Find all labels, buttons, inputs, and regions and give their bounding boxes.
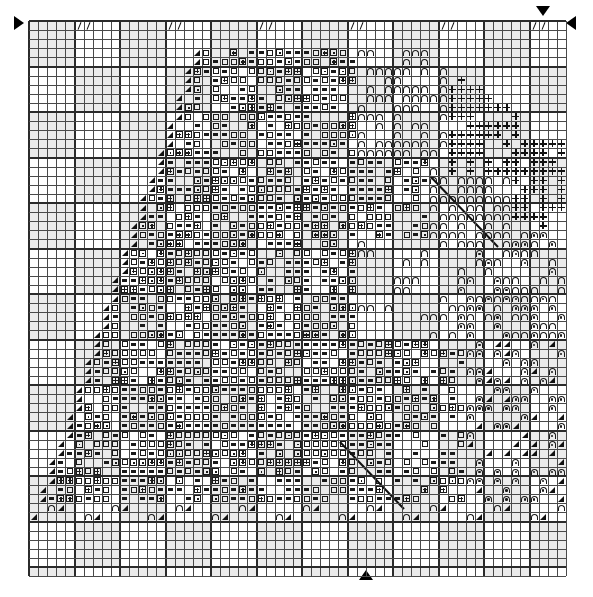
dash-icon	[295, 415, 300, 418]
boxplus-icon	[112, 359, 119, 366]
boxplus-icon	[321, 49, 328, 56]
stitch-cell-tri	[120, 258, 129, 267]
stitch-cell-eye	[138, 221, 147, 230]
stitch-cell-arch	[439, 139, 448, 148]
boxplus-icon	[130, 286, 137, 293]
stitch-cell-box	[175, 258, 184, 267]
dash-icon	[350, 161, 355, 164]
major-gridline-horizontal	[29, 157, 566, 159]
arch-icon	[540, 331, 547, 338]
box-icon	[331, 441, 337, 447]
stitch-cell-shoe	[539, 476, 548, 485]
stitch-cell-arch	[420, 85, 429, 94]
dash-icon	[240, 443, 245, 446]
stitch-cell-shoe	[548, 403, 557, 412]
arch-icon	[476, 259, 483, 266]
stitch-cell-I	[211, 21, 220, 30]
stitch-cell-empty	[420, 503, 429, 512]
dash-icon	[249, 215, 254, 218]
plus-icon	[485, 168, 492, 175]
box-icon	[231, 195, 237, 201]
stitch-cell-box	[184, 431, 193, 440]
stitch-cell-dash	[375, 203, 384, 212]
dash-icon	[131, 297, 136, 300]
stitch-cell-box	[238, 176, 247, 185]
stitch-cell-dash	[348, 431, 357, 440]
eye-icon	[148, 277, 155, 284]
stitch-cell-dash	[357, 176, 366, 185]
arch-icon	[358, 113, 365, 120]
stitch-cell-box	[348, 67, 357, 76]
gridline-horizontal	[29, 458, 566, 459]
stitch-cell-dash	[366, 167, 375, 176]
stitch-cell-empty	[138, 567, 147, 576]
gridline-horizontal	[29, 540, 566, 541]
dash-icon	[186, 161, 191, 164]
dash-icon	[213, 415, 218, 418]
shoe-icon	[503, 286, 510, 293]
shoe-icon	[531, 386, 538, 393]
plus-icon	[540, 204, 547, 211]
gridline-horizontal	[29, 449, 566, 450]
stitch-cell-empty	[93, 276, 102, 285]
dash-icon	[131, 443, 136, 446]
box-icon	[322, 296, 328, 302]
stitch-cell-box	[257, 431, 266, 440]
stitch-cell-I	[375, 276, 384, 285]
stitch-cell-dash	[266, 139, 275, 148]
stitch-cell-empty	[393, 212, 402, 221]
stitch-cell-box	[175, 431, 184, 440]
stitch-cell-plus	[539, 139, 548, 148]
box-icon	[449, 468, 455, 474]
gridline-vertical	[38, 21, 39, 576]
dash-icon	[195, 288, 200, 291]
stitch-cell-dash	[93, 412, 102, 421]
stitch-cell-empty	[38, 303, 47, 312]
stitch-cell-dash	[257, 48, 266, 57]
box-icon	[85, 468, 91, 474]
dash-icon	[331, 206, 336, 209]
arch-icon	[339, 513, 346, 520]
gridline-vertical	[293, 21, 294, 576]
stitch-cell-dash	[93, 485, 102, 494]
stitch-cell-box	[311, 158, 320, 167]
stitch-cell-empty	[548, 94, 557, 103]
stitch-cell-empty	[47, 221, 56, 230]
stitch-cell-empty	[375, 85, 384, 94]
stitch-cell-shoe	[466, 349, 475, 358]
stitch-cell-plus	[548, 158, 557, 167]
boxplus-icon	[339, 341, 346, 348]
dash-icon	[368, 343, 373, 346]
stitch-cell-dash	[266, 121, 275, 130]
stitch-cell-dash	[147, 358, 156, 367]
stitch-cell-boxplus	[402, 385, 411, 394]
stitch-cell-box	[257, 367, 266, 376]
stitch-cell-empty	[120, 203, 129, 212]
stitch-cell-box	[184, 412, 193, 421]
stitch-cell-arch	[484, 176, 493, 185]
arch-icon	[440, 95, 447, 102]
boxplus-icon	[176, 386, 183, 393]
tri-icon	[486, 396, 492, 402]
stitch-cell-boxplus	[257, 394, 266, 403]
stitch-cell-empty	[484, 303, 493, 312]
stitch-cell-tri	[502, 394, 511, 403]
dash-icon	[177, 488, 182, 491]
boxplus-icon	[66, 495, 73, 502]
box-icon	[185, 286, 191, 292]
boxplus-icon	[303, 186, 310, 193]
stitch-cell-dash	[220, 312, 229, 321]
plus-icon	[549, 204, 556, 211]
box-icon	[449, 496, 455, 502]
stitch-cell-boxplus	[193, 67, 202, 76]
boxplus-icon	[185, 149, 192, 156]
boxplus-icon	[221, 77, 228, 84]
stitch-cell-box	[393, 394, 402, 403]
dash-icon	[231, 388, 236, 391]
stitch-cell-dash	[193, 349, 202, 358]
dash-icon	[422, 215, 427, 218]
box-icon	[149, 286, 155, 292]
stitch-cell-dash	[284, 203, 293, 212]
stitch-cell-dash	[220, 385, 229, 394]
stitch-cell-empty	[420, 303, 429, 312]
